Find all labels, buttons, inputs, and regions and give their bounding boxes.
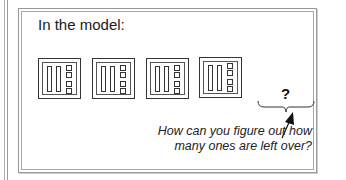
base-ten-block-group-1 (38, 58, 81, 99)
ones-square (66, 65, 72, 71)
tens-rod (208, 65, 213, 91)
ones-square (120, 81, 126, 87)
panel-title: In the model: (38, 16, 125, 33)
ones-square (227, 79, 233, 85)
tens-rod (217, 65, 222, 91)
tens-rod (155, 66, 160, 92)
tens-rod (164, 66, 169, 92)
ones-square (66, 81, 72, 87)
adjacent-panel-edge (0, 0, 8, 180)
tens-rod (110, 66, 115, 92)
tens-rod (47, 66, 52, 92)
guiding-question-line-1: How can you figure out how (158, 124, 312, 139)
ones-square (120, 65, 126, 71)
ones-square (66, 88, 72, 94)
ones-square (66, 72, 72, 78)
tens-rod (56, 66, 61, 92)
ones-square (227, 86, 233, 92)
ones-square (174, 72, 180, 78)
ones-square (174, 81, 180, 87)
ones-square (227, 63, 233, 69)
ones-square (227, 70, 233, 76)
ones-square (120, 72, 126, 78)
ones-square (174, 88, 180, 94)
guiding-question: How can you figure out how many ones are… (158, 124, 312, 153)
base-ten-block-group-4 (199, 57, 242, 98)
tens-rod (101, 66, 106, 92)
guiding-question-line-2: many ones are left over? (158, 139, 312, 154)
ones-square (120, 88, 126, 94)
base-ten-block-group-3 (146, 58, 189, 99)
base-ten-block-group-2 (92, 58, 135, 99)
ones-square (174, 65, 180, 71)
